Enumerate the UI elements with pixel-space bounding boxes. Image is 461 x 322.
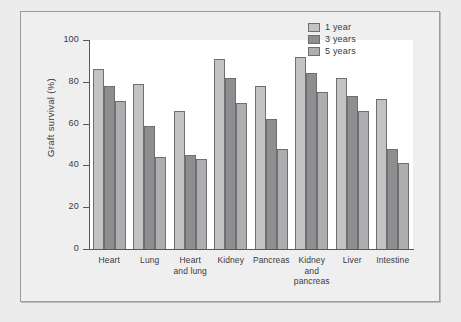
bar (196, 159, 207, 249)
y-axis-line (89, 40, 90, 250)
figure-panel: 020406080100 Graft survival (%) HeartLun… (20, 11, 440, 302)
legend-label: 1 year (325, 23, 351, 32)
bar (236, 103, 247, 249)
bar (185, 155, 196, 249)
y-axis-title: Graft survival (%) (45, 53, 56, 183)
y-axis-tick (83, 40, 89, 41)
legend-item: 3 years (308, 35, 356, 44)
category-label: Intestine (363, 255, 423, 266)
y-axis-tick-label: 0 (51, 244, 79, 253)
legend-swatch (308, 47, 320, 56)
y-axis-tick (83, 124, 89, 125)
bar (93, 69, 104, 249)
bar (155, 157, 166, 249)
bar (347, 96, 358, 249)
bar (266, 119, 277, 249)
y-axis-tick-label: 20 (51, 202, 79, 211)
category-label-line: pancreas (282, 276, 342, 287)
y-axis-tick-value: 80 (53, 77, 79, 86)
bar (255, 86, 266, 249)
chart-legend: 1 year3 years5 years (308, 23, 356, 56)
legend-label: 3 years (325, 35, 356, 44)
bar (115, 101, 126, 249)
y-axis-tick-value: 20 (53, 202, 79, 211)
bar-group (295, 40, 328, 249)
bar (214, 59, 225, 249)
bar (133, 84, 144, 249)
bar-group (214, 40, 247, 249)
y-axis-tick-value: 60 (53, 119, 79, 128)
bar (174, 111, 185, 249)
bar-group (174, 40, 207, 249)
bar (104, 86, 115, 249)
bar (358, 111, 369, 249)
y-axis-tick (83, 249, 89, 250)
bar (306, 73, 317, 249)
category-label-line: and lung (160, 266, 220, 277)
legend-item: 1 year (308, 23, 356, 32)
bar (398, 163, 409, 249)
bar (225, 78, 236, 249)
category-label-line: Intestine (363, 255, 423, 266)
bar-group (255, 40, 288, 249)
y-axis-tick-label: 100 (51, 35, 79, 44)
legend-swatch (308, 23, 320, 32)
bar (144, 126, 155, 249)
x-axis-line (89, 249, 414, 250)
legend-item: 5 years (308, 47, 356, 56)
y-axis-tick-value: 40 (53, 160, 79, 169)
y-axis-tick (83, 165, 89, 166)
y-axis-tick (83, 207, 89, 208)
bar (317, 92, 328, 249)
bar-group (376, 40, 409, 249)
y-axis-tick (83, 82, 89, 83)
bar-group (336, 40, 369, 249)
legend-swatch (308, 35, 320, 44)
category-label-line: and (282, 266, 342, 277)
bar-group (133, 40, 166, 249)
y-axis-tick-value: 0 (53, 244, 79, 253)
legend-label: 5 years (325, 47, 356, 56)
bar (376, 99, 387, 249)
y-axis-tick-value: 100 (53, 35, 79, 44)
bar (387, 149, 398, 249)
bar-group (93, 40, 126, 249)
bar (336, 78, 347, 249)
bar (295, 57, 306, 249)
bar (277, 149, 288, 249)
